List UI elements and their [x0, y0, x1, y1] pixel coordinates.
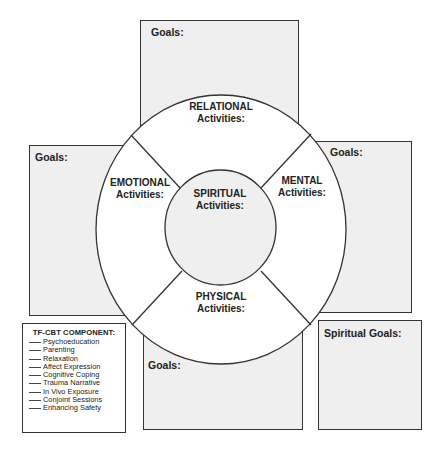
emotional-title: EMOTIONAL: [110, 177, 170, 189]
physical-subtitle: Activities:: [196, 303, 247, 315]
checkbox-blank[interactable]: [29, 350, 41, 351]
physical-segment-label: PHYSICAL Activities:: [196, 291, 247, 315]
checkbox-blank[interactable]: [29, 375, 41, 376]
checkbox-blank[interactable]: [29, 359, 41, 360]
spiritual-segment-label: SPIRITUAL Activities:: [194, 188, 247, 212]
checkbox-blank[interactable]: [29, 342, 41, 343]
mental-segment-label: MENTAL Activities:: [278, 175, 326, 199]
physical-title: PHYSICAL: [196, 291, 247, 303]
spiritual-subtitle: Activities:: [194, 200, 247, 212]
emotional-subtitle: Activities:: [110, 189, 170, 201]
tfcbt-title: TF-CBT COMPONENT:: [23, 328, 125, 337]
mental-subtitle: Activities:: [278, 187, 326, 199]
tfcbt-item[interactable]: Enhancing Safety: [29, 404, 125, 412]
checkbox-blank[interactable]: [29, 408, 41, 409]
tfcbt-list: Psychoeducation Parenting Relaxation Aff…: [29, 338, 125, 413]
checkbox-blank[interactable]: [29, 392, 41, 393]
relational-title: RELATIONAL: [189, 101, 253, 113]
relational-segment-label: RELATIONAL Activities:: [189, 101, 253, 125]
relational-subtitle: Activities:: [189, 113, 253, 125]
checkbox-blank[interactable]: [29, 367, 41, 368]
checkbox-blank[interactable]: [29, 383, 41, 384]
tfcbt-item-label: Enhancing Safety: [43, 403, 101, 412]
checkbox-blank[interactable]: [29, 400, 41, 401]
tfcbt-component-box: TF-CBT COMPONENT: Psychoeducation Parent…: [22, 323, 126, 433]
emotional-segment-label: EMOTIONAL Activities:: [110, 177, 170, 201]
spiritual-title: SPIRITUAL: [194, 188, 247, 200]
mental-title: MENTAL: [278, 175, 326, 187]
